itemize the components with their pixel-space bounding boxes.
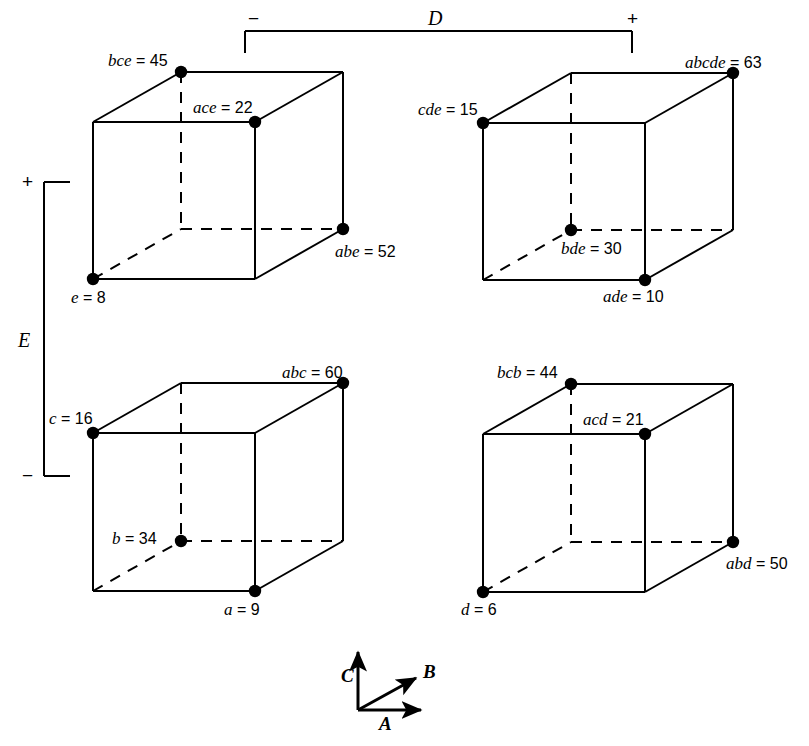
cube-bottom-left-top-left-connector [93, 383, 181, 433]
e-minus-sign: − [22, 466, 33, 485]
treatment-value: = 8 [79, 289, 106, 306]
cube-top-right-dot-cde [477, 117, 489, 129]
treatment-value: = 45 [132, 52, 168, 69]
axis-key-label-c: C [341, 666, 354, 685]
cube-bottom-right-dot-acd [639, 428, 651, 440]
d-bracket-letter: D [428, 8, 442, 28]
treatment-name: bce [108, 51, 132, 70]
cube-top-left-bottom-right-connector [255, 229, 343, 279]
d-minus-sign: − [248, 9, 259, 28]
cube-bottom-right-bottom-right-connector [645, 542, 733, 592]
cube-top-left-label-abe: abe = 52 [335, 243, 396, 260]
cube-bottom-left-label-abc: abc = 60 [282, 364, 343, 381]
cube-bottom-left-dot-b [175, 535, 187, 547]
treatment-value: = 60 [307, 364, 343, 381]
cube-top-right-label-cde: cde = 15 [418, 101, 478, 118]
cube-bottom-right-dot-d [477, 586, 489, 598]
treatment-name: cde [418, 100, 442, 119]
cube-bottom-right-label-abd: abd = 50 [726, 555, 788, 572]
cube-top-left-dot-ace [249, 116, 261, 128]
cube-top-right-label-bde: bde = 30 [561, 240, 622, 257]
treatment-value: = 34 [121, 530, 157, 547]
cube-bottom-left-label-a: a = 9 [224, 601, 260, 618]
treatment-value: = 44 [522, 364, 558, 381]
treatment-name: bde [561, 239, 586, 258]
cube-bottom-left-bottom-right-connector [255, 541, 343, 591]
d-plus-sign: + [627, 9, 638, 28]
treatment-value: = 63 [726, 54, 762, 71]
cube-bottom-right-dot-bcb [565, 378, 577, 390]
cube-bottom-right-hidden-bottom-left-connector [483, 542, 571, 592]
treatment-name: ace [193, 98, 217, 117]
e-plus-sign: + [22, 172, 33, 191]
e-bracket-letter: E [18, 330, 30, 350]
treatment-name: c [49, 409, 57, 428]
cube-bottom-left-dot-c [87, 427, 99, 439]
treatment-name: d [461, 600, 470, 619]
cube-bottom-right-top-right-connector [645, 384, 733, 434]
cube-top-right-top-left-connector [483, 73, 571, 123]
cube-top-left-dot-e [87, 273, 99, 285]
treatment-value: = 10 [628, 288, 664, 305]
treatment-value: = 16 [57, 410, 93, 427]
treatment-value: = 21 [608, 411, 644, 428]
treatment-value: = 30 [586, 240, 622, 257]
treatment-name: abc [282, 363, 307, 382]
cube-bottom-left-label-c: c = 16 [49, 410, 93, 427]
cube-top-left-hidden-bottom-left-connector [93, 229, 181, 279]
cube-top-left-label-ace: ace = 22 [193, 99, 253, 116]
cube-bottom-left-hidden-bottom-left-connector [93, 541, 181, 591]
axis-key-arrow-b [358, 678, 416, 710]
treatment-name: e [71, 288, 79, 307]
cube-top-right-top-right-connector [645, 73, 733, 123]
cube-bottom-left-label-b: b = 34 [112, 530, 157, 547]
cube-bottom-right-label-d: d = 6 [461, 601, 497, 618]
treatment-name: abcde [685, 53, 726, 72]
treatment-value: = 52 [360, 243, 396, 260]
cube-top-left-top-right-connector [255, 72, 343, 122]
cube-top-left-top-left-connector [93, 72, 181, 122]
treatment-value: = 22 [217, 99, 253, 116]
treatment-name: abd [726, 554, 752, 573]
cube-top-left-label-e: e = 8 [71, 289, 106, 306]
treatment-value: = 50 [752, 555, 788, 572]
cube-top-left-label-bce: bce = 45 [108, 52, 168, 69]
cube-top-right-label-abcde: abcde = 63 [685, 54, 762, 71]
cube-bottom-right-label-bcb: bcb = 44 [497, 364, 558, 381]
figure-canvas [0, 0, 809, 746]
axis-key-label-b: B [423, 662, 436, 681]
cube-top-left-dot-bce [175, 66, 187, 78]
cube-bottom-right-dot-abd [727, 536, 739, 548]
treatment-value: = 15 [442, 101, 478, 118]
treatment-name: ade [603, 287, 628, 306]
treatment-value: = 9 [233, 601, 260, 618]
cube-top-right-hidden-bottom-left-connector [483, 230, 571, 280]
cube-bottom-right-label-acd: acd = 21 [583, 411, 644, 428]
cube-top-right-bottom-right-connector [645, 230, 733, 280]
cube-top-left-dot-abe [337, 223, 349, 235]
cube-bottom-left-dot-a [249, 585, 261, 597]
treatment-name: b [112, 529, 121, 548]
cube-top-right-dot-ade [639, 274, 651, 286]
treatment-name: acd [583, 410, 608, 429]
treatment-name: bcb [497, 363, 522, 382]
cube-top-right-label-ade: ade = 10 [603, 288, 664, 305]
treatment-value: = 6 [470, 601, 497, 618]
cube-top-right-dot-bde [565, 224, 577, 236]
treatment-name: a [224, 600, 233, 619]
treatment-name: abe [335, 242, 360, 261]
axis-key-label-a: A [379, 714, 392, 733]
cube-bottom-right-top-left-connector [483, 384, 571, 434]
cube-bottom-left-top-right-connector [255, 383, 343, 433]
cube-plot-figure: bce = 45ace = 22abe = 52e = 8abcde = 63c… [0, 0, 809, 746]
